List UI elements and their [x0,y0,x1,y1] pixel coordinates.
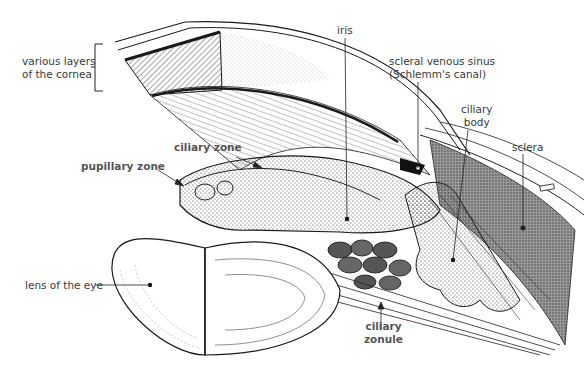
label-cornea-layers-line2: of the cornea [22,68,96,81]
label-cornea-layers: various layers of the cornea [22,55,96,81]
label-ciliary-body: ciliary body [461,103,493,129]
label-ciliary-body-line1: ciliary [461,103,493,116]
label-ciliary-zonule: ciliary zonule [364,320,403,346]
label-lens: lens of the eye [25,279,103,292]
lens [112,239,340,355]
label-ciliary-body-line2: body [461,116,493,129]
label-ciliary-zonule-line2: zonule [364,333,403,346]
label-iris: iris [337,24,353,37]
label-scleral-sinus-line1: scleral venous sinus [389,55,495,68]
ciliary-processes [328,240,411,290]
label-ciliary-zonule-line1: ciliary [364,320,403,333]
label-sclera: sclera [512,141,543,154]
label-scleral-venous-sinus: scleral venous sinus (Schlemm's canal) [389,55,495,81]
label-pupillary-zone: pupillary zone [81,160,165,173]
label-cornea-layers-line1: various layers [22,55,96,68]
cornea [115,22,470,175]
label-ciliary-zone: ciliary zone [174,141,242,154]
label-scleral-sinus-line2: (Schlemm's canal) [389,68,495,81]
